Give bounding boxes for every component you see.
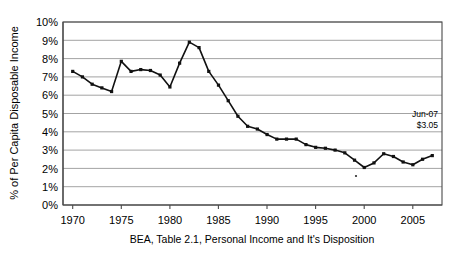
series-marker	[411, 163, 414, 166]
series-marker	[217, 84, 220, 87]
y-tick-label-0: 0%	[42, 199, 58, 211]
series-marker	[353, 159, 356, 162]
series-marker	[168, 85, 171, 88]
x-tick-label-2000: 2000	[352, 214, 376, 226]
series-marker	[363, 166, 366, 169]
y-axis-tick-labels: 10% 9% 8% 7% 6% 5% 4% 3% 2% 1% 0%	[36, 16, 58, 211]
series-marker	[275, 138, 278, 141]
y-tick-label-9: 9%	[42, 35, 58, 47]
x-tick-label-1970: 1970	[60, 214, 84, 226]
series-marker	[91, 83, 94, 86]
chart-container: 10% 9% 8% 7% 6% 5% 4% 3% 2% 1% 0% 1970 1…	[0, 0, 456, 265]
series-marker	[314, 146, 317, 149]
series-marker	[149, 69, 152, 72]
series-marker	[81, 75, 84, 78]
y-tick-label-4: 4%	[42, 126, 58, 138]
y-tick-label-5: 5%	[42, 108, 58, 120]
stray-speck	[355, 175, 357, 177]
x-tick-label-1980: 1980	[158, 214, 182, 226]
annotation-value-label: $3.05	[417, 120, 439, 130]
series-marker	[304, 143, 307, 146]
y-axis-title: % of Per Capita Disposable Income	[8, 26, 20, 200]
x-tick-label-1975: 1975	[109, 214, 133, 226]
y-tick-label-10: 10%	[36, 16, 58, 28]
series-marker	[343, 151, 346, 154]
series-marker	[285, 138, 288, 141]
series-marker	[207, 70, 210, 73]
series-marker	[382, 152, 385, 155]
y-tick-label-3: 3%	[42, 144, 58, 156]
x-tick-label-1995: 1995	[303, 214, 327, 226]
x-axis-tick-labels: 1970 1975 1980 1985 1990 1995 2000 2005	[60, 214, 425, 226]
series-marker	[372, 161, 375, 164]
series-marker	[159, 73, 162, 76]
x-tick-label-1990: 1990	[255, 214, 279, 226]
series-marker	[256, 127, 259, 130]
series-marker	[129, 70, 132, 73]
series-marker	[421, 158, 424, 161]
series-marker	[431, 154, 434, 157]
x-axis-ticks	[73, 205, 413, 209]
annotation-date-label: Jun-07	[412, 109, 438, 119]
series-marker	[178, 62, 181, 65]
series-marker	[110, 90, 113, 93]
series-marker	[197, 46, 200, 49]
series-marker	[120, 60, 123, 63]
series-marker	[392, 155, 395, 158]
series-marker	[295, 138, 298, 141]
end-point-annotation: Jun-07 $3.05	[412, 109, 438, 130]
series-marker	[236, 115, 239, 118]
series-marker	[71, 70, 74, 73]
series-marker	[324, 147, 327, 150]
y-tick-label-6: 6%	[42, 89, 58, 101]
series-marker	[402, 160, 405, 163]
x-tick-label-1985: 1985	[206, 214, 230, 226]
series-marker	[334, 149, 337, 152]
series-marker	[100, 86, 103, 89]
series-marker	[246, 125, 249, 128]
y-tick-label-8: 8%	[42, 53, 58, 65]
series-marker	[227, 99, 230, 102]
y-tick-label-2: 2%	[42, 163, 58, 175]
savings-rate-line-chart: 10% 9% 8% 7% 6% 5% 4% 3% 2% 1% 0% 1970 1…	[0, 0, 456, 265]
y-tick-label-1: 1%	[42, 181, 58, 193]
series-marker	[139, 68, 142, 71]
y-tick-label-7: 7%	[42, 71, 58, 83]
chart-footnote: BEA, Table 2.1, Personal Income and It's…	[130, 233, 375, 245]
series-marker	[265, 133, 268, 136]
series-marker	[188, 41, 191, 44]
x-tick-label-2005: 2005	[401, 214, 425, 226]
